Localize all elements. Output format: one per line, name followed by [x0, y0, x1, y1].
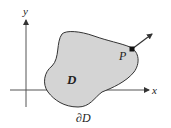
- point-p-label: P: [118, 49, 127, 63]
- y-axis-label: y: [22, 5, 28, 17]
- region-d-label: D: [66, 72, 77, 87]
- region-diagram: y x P D ∂D: [0, 0, 171, 128]
- x-axis-label: x: [151, 84, 157, 96]
- region-d: [45, 32, 139, 107]
- boundary-label: ∂D: [76, 111, 91, 125]
- normal-vector-arrow: [132, 34, 152, 49]
- point-p-marker: [130, 47, 135, 52]
